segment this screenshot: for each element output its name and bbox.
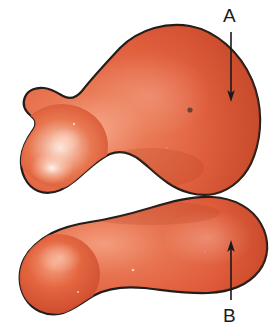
lower-bulb-highlight xyxy=(38,242,82,274)
horn-highlight xyxy=(30,152,74,184)
lower-lobe xyxy=(16,190,277,314)
surface-fleck-2 xyxy=(166,147,168,149)
surface-fleck-5 xyxy=(77,291,79,293)
label-b: B xyxy=(223,306,236,325)
surface-speck xyxy=(187,107,192,112)
surface-fleck-1 xyxy=(73,123,75,125)
figure-root: A B xyxy=(0,0,277,331)
surface-fleck-3 xyxy=(132,269,135,272)
upper-lobe xyxy=(16,10,277,210)
lower-lobe-top-shadow xyxy=(80,201,220,225)
surface-fleck-4 xyxy=(204,251,206,253)
label-a: A xyxy=(223,6,236,25)
specimen-illustration xyxy=(0,0,277,331)
horn-highlight-secondary xyxy=(50,128,82,152)
